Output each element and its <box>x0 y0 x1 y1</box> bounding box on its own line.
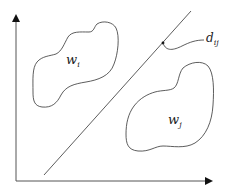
distance-label: dij <box>206 31 219 47</box>
decision-boundary-line <box>44 11 191 175</box>
region-wj-outline <box>126 62 213 151</box>
region-wj-label: wj <box>168 112 182 129</box>
region-wi-label: wi <box>66 52 80 69</box>
decision-boundary-diagram: wi wj dij <box>0 0 229 192</box>
distance-leader-curve <box>163 40 204 49</box>
